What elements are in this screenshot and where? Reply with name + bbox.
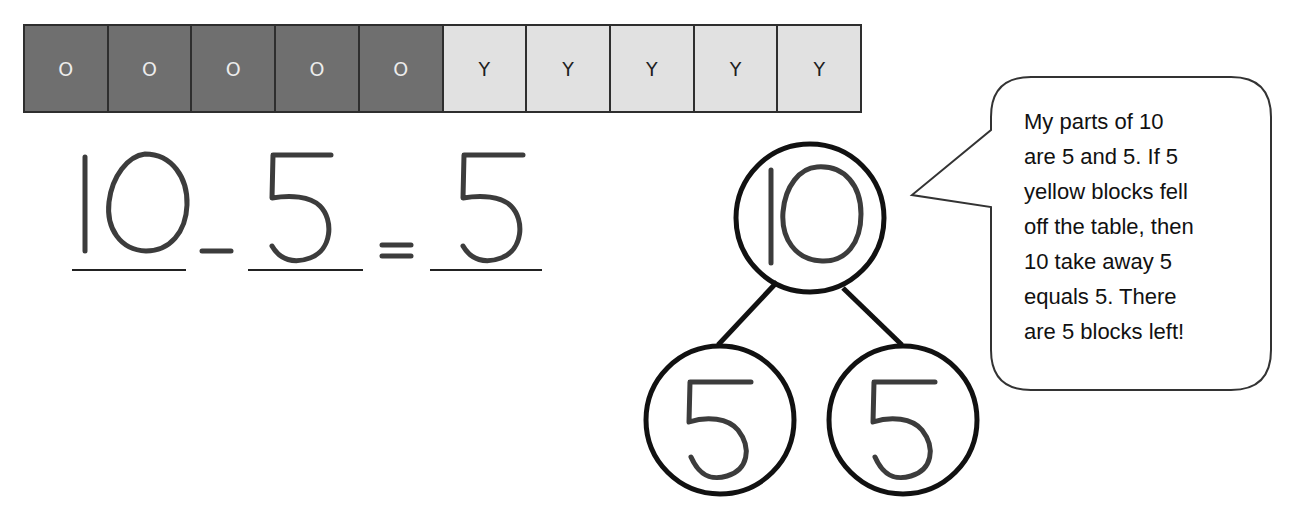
- bond-connector-left: [718, 282, 777, 345]
- bubble-line: 10 take away 5: [1024, 244, 1264, 279]
- bond-whole-circle: 10: [736, 144, 884, 292]
- bond-part-left-circle: 5: [646, 346, 794, 494]
- equals-sign: [382, 245, 411, 256]
- handwritten-minuend-10: [85, 154, 187, 251]
- equation: 10 - 5 = 5: [72, 154, 542, 270]
- bubble-line: are 5 blocks left!: [1024, 314, 1264, 349]
- handwritten-subtrahend-5: [272, 155, 331, 261]
- bubble-line: yellow blocks fell: [1024, 174, 1264, 209]
- bubble-line: My parts of 10: [1024, 104, 1264, 139]
- speech-bubble-text: My parts of 10 are 5 and 5. If 5 yellow …: [1024, 104, 1264, 349]
- bubble-line: are 5 and 5. If 5: [1024, 139, 1264, 174]
- bubble-line: off the table, then: [1024, 209, 1264, 244]
- handwritten-difference-5: [463, 155, 523, 261]
- bond-connector-right: [843, 288, 902, 345]
- bubble-line: equals 5. There: [1024, 279, 1264, 314]
- bond-part-right-circle: 5: [829, 346, 977, 494]
